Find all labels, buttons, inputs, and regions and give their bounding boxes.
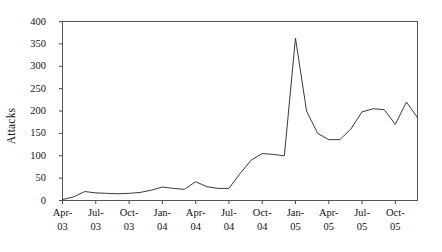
data-line-attacks — [63, 38, 418, 200]
x-axis-tick-labels: Apr-03Jul-03Oct-03Jan-04Apr-04Jul-04Oct-… — [0, 206, 442, 252]
y-axis-ticks — [59, 22, 63, 201]
x-axis-ticks — [63, 201, 396, 205]
x-tick-month: Oct- — [373, 206, 417, 220]
x-tick-year: 05 — [373, 220, 417, 234]
attacks-line-chart: Attacks 400350300250200150100500 Apr-03J… — [0, 0, 442, 252]
x-tick-label: Oct-05 — [373, 206, 417, 233]
